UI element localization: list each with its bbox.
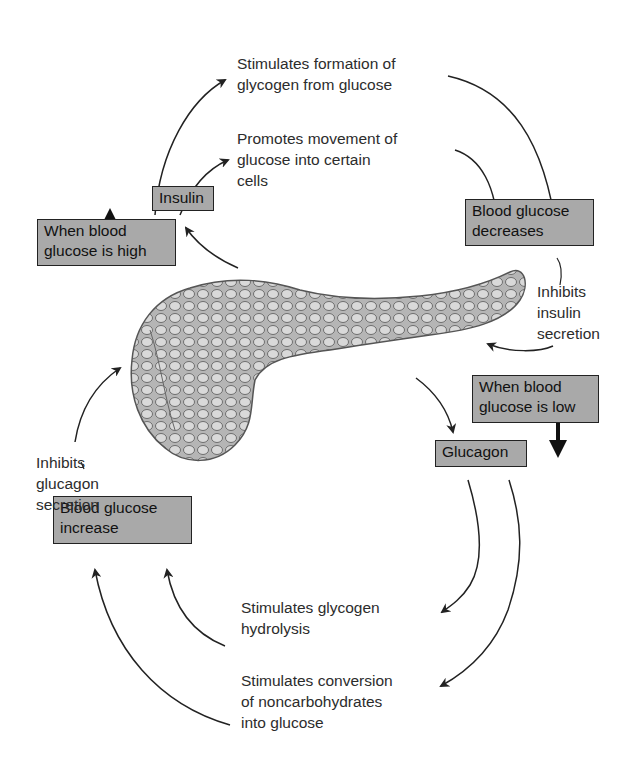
pancreas-illustration (131, 271, 525, 461)
box-when-glucose-high: When blood glucose is high (37, 219, 176, 266)
box-glucagon: Glucagon (435, 440, 527, 467)
label-noncarbohydrate-conversion: Stimulates conversion of noncarbohydrate… (241, 670, 393, 733)
arrow-pancreas-to-glucagon (416, 378, 453, 432)
label-glycogen-formation: Stimulates formation of glycogen from gl… (237, 53, 396, 95)
arrow-glucagon-to-conversion (441, 480, 520, 686)
box-blood-glucose-decreases: Blood glucose decreases (465, 199, 594, 246)
arrow-inhibits-insulin (488, 344, 553, 351)
arrow-hydrolysis-to-increase (167, 570, 225, 646)
label-glucose-movement: Promotes movement of glucose into certai… (237, 128, 397, 191)
box-when-glucose-low: When blood glucose is low (472, 375, 599, 423)
arrow-pancreas-to-insulin (186, 228, 238, 268)
label-inhibits-glucagon: Inhibits glucagon secretion (36, 452, 99, 515)
box-insulin: Insulin (152, 186, 214, 211)
arrow-inhibits-glucagon (75, 368, 120, 442)
arrow-conversion-to-increase (95, 570, 230, 725)
arrow-glucagon-to-hydrolysis (442, 480, 479, 612)
label-inhibits-insulin: Inhibits insulin secretion (537, 281, 600, 344)
label-glycogen-hydrolysis: Stimulates glycogen hydrolysis (241, 597, 380, 639)
